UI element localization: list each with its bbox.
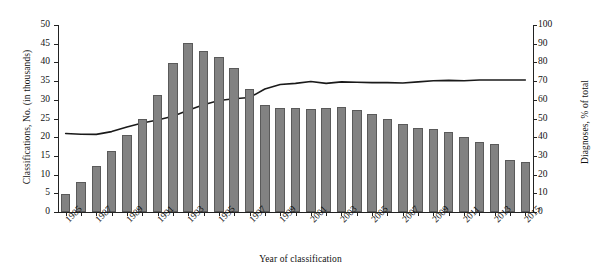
y-axis-left-title: Classifications, No. (in thousands) (22, 27, 32, 207)
bar (92, 166, 102, 212)
plot-area: 1985198719891991199319951997199920012003… (58, 25, 533, 212)
y-axis-right-tick-label: 60 (538, 95, 548, 105)
bar (229, 68, 239, 212)
bar (306, 109, 316, 212)
y-axis-left-tick (54, 119, 58, 120)
y-axis-left-tick (54, 81, 58, 82)
y-axis-right-tick-label: 20 (538, 170, 548, 180)
bar (122, 135, 132, 212)
y-axis-right-tick (533, 44, 537, 45)
bar (153, 95, 163, 212)
bar (291, 108, 301, 212)
bar (413, 128, 423, 212)
y-axis-right-tick (533, 193, 537, 194)
bar (429, 129, 439, 212)
bar (321, 108, 331, 212)
y-axis-left-tick (54, 193, 58, 194)
y-axis-left-tick (54, 25, 58, 26)
bar (199, 51, 209, 212)
bar (475, 142, 485, 212)
y-axis-right-tick (533, 100, 537, 101)
bar (398, 124, 408, 212)
y-axis-right-tick (533, 119, 537, 120)
bar (367, 114, 377, 212)
y-axis-right-tick (533, 25, 537, 26)
y-axis-right-tick-label: 80 (538, 57, 548, 67)
bar (459, 137, 469, 212)
chart-figure: 05101520253035404550 Classifications, No… (0, 0, 601, 273)
bar (275, 108, 285, 212)
bar (214, 57, 224, 212)
y-axis-right-tick (533, 156, 537, 157)
y-axis-left-tick (54, 100, 58, 101)
y-axis-right: 0102030405060708090100 (538, 0, 568, 273)
y-axis-right-tick (533, 81, 537, 82)
y-axis-left-tick (54, 175, 58, 176)
y-axis-left-tick-label: 0 (22, 207, 50, 217)
y-axis-right-tick-label: 70 (538, 76, 548, 86)
y-axis-right-tick (533, 62, 537, 63)
bar (168, 63, 178, 212)
y-axis-left-tick (54, 44, 58, 45)
y-axis-right-tick (533, 175, 537, 176)
y-axis-left-tick (54, 156, 58, 157)
bar (490, 144, 500, 212)
y-axis-left-tick (54, 62, 58, 63)
bar (107, 151, 117, 212)
bar (521, 162, 531, 212)
bar (260, 105, 270, 212)
bar (352, 110, 362, 212)
y-axis-left-tick (54, 137, 58, 138)
y-axis-right-tick-label: 40 (538, 132, 548, 142)
x-axis-title: Year of classification (0, 254, 601, 264)
y-axis-right-tick-label: 50 (538, 114, 548, 124)
y-axis-right-tick-label: 100 (538, 20, 552, 30)
bar (383, 119, 393, 213)
y-axis-right-tick-label: 90 (538, 39, 548, 49)
y-axis-right-title: Diagnoses, % of total (580, 37, 590, 207)
y-axis-left-tick (54, 212, 58, 213)
bar (183, 43, 193, 212)
y-axis-right-tick-label: 30 (538, 151, 548, 161)
bar (61, 194, 71, 212)
bar (245, 89, 255, 212)
bar (138, 119, 148, 212)
bar (337, 107, 347, 212)
y-axis-right-tick-label: 10 (538, 188, 548, 198)
y-axis-right-tick (533, 137, 537, 138)
bar (444, 132, 454, 212)
